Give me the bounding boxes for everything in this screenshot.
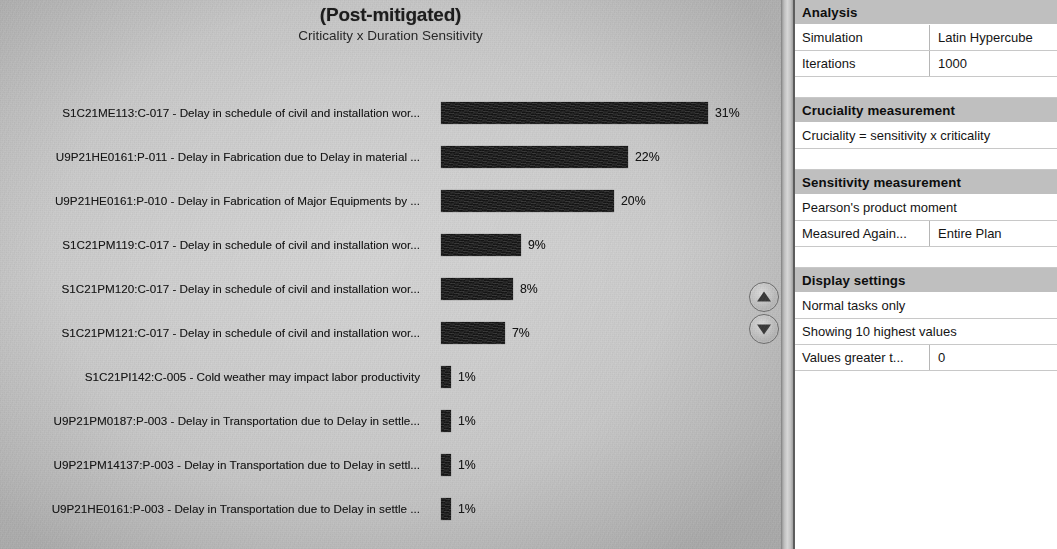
row-values-greater-than[interactable]: Values greater t... 0 (795, 345, 1057, 371)
triangle-up-icon (757, 292, 771, 302)
row-simulation-value: Latin Hypercube (930, 30, 1057, 45)
bar-track (441, 322, 505, 344)
bar-track (441, 498, 451, 520)
section-header-sensitivity: Sensitivity measurement (795, 170, 1057, 195)
row-sensitivity-method-text: Pearson's product moment (795, 200, 1057, 215)
bar-track (441, 146, 628, 168)
bar-row[interactable]: U9P21PM14137:P-003 - Delay in Transporta… (0, 452, 781, 478)
row-measured-against-value: Entire Plan (930, 226, 1057, 241)
bar-track (441, 454, 451, 476)
bar-value-label: 9% (528, 234, 546, 256)
bar-label: U9P21HE0161:P-011 - Delay in Fabrication… (0, 144, 420, 170)
scroll-up-button[interactable] (749, 282, 779, 312)
row-normal-tasks-only-text: Normal tasks only (795, 298, 1057, 313)
bar-label: U9P21HE0161:P-010 - Delay in Fabrication… (0, 188, 420, 214)
bar-track (441, 278, 513, 300)
bar-value-label: 1% (458, 498, 476, 520)
chart-title-block: (Post-mitigated) Criticality x Duration … (0, 4, 781, 45)
bar-row[interactable]: U9P21HE0161:P-010 - Delay in Fabrication… (0, 188, 781, 214)
bar-row[interactable]: S1C21ME113:C-017 - Delay in schedule of … (0, 100, 781, 126)
row-measured-against[interactable]: Measured Again... Entire Plan (795, 221, 1057, 247)
analysis-side-panel: Analysis Simulation Latin Hypercube Iter… (793, 0, 1057, 549)
row-showing-highest-values[interactable]: Showing 10 highest values (795, 319, 1057, 345)
section-header-cruciality: Cruciality measurement (795, 98, 1057, 123)
chart-subtitle: Criticality x Duration Sensitivity (0, 27, 781, 45)
bar-fill[interactable] (441, 410, 451, 432)
bar-value-label: 1% (458, 366, 476, 388)
bar-label: S1C21PM121:C-017 - Delay in schedule of … (0, 320, 420, 346)
row-showing-highest-values-text: Showing 10 highest values (795, 324, 1057, 339)
section-spacer (795, 149, 1057, 170)
row-simulation[interactable]: Simulation Latin Hypercube (795, 25, 1057, 51)
bar-row[interactable]: U9P21HE0161:P-011 - Delay in Fabrication… (0, 144, 781, 170)
row-iterations-key: Iterations (795, 56, 929, 71)
bar-label: U9P21HE0161:P-003 - Delay in Transportat… (0, 496, 420, 522)
bar-fill[interactable] (441, 454, 451, 476)
section-header-display-settings: Display settings (795, 268, 1057, 293)
bar-label: S1C21ME113:C-017 - Delay in schedule of … (0, 100, 420, 126)
bar-value-label: 31% (715, 102, 740, 124)
row-sensitivity-method[interactable]: Pearson's product moment (795, 195, 1057, 221)
bar-row[interactable]: S1C21PI142:C-005 - Cold weather may impa… (0, 364, 781, 390)
bar-value-label: 1% (458, 454, 476, 476)
bar-value-label: 8% (520, 278, 538, 300)
row-values-greater-than-key: Values greater t... (795, 350, 929, 365)
section-spacer (795, 247, 1057, 268)
bar-fill[interactable] (441, 190, 614, 212)
analysis-screen: (Post-mitigated) Criticality x Duration … (0, 0, 1057, 549)
bar-fill[interactable] (441, 366, 451, 388)
bar-label: U9P21PM0187:P-003 - Delay in Transportat… (0, 408, 420, 434)
bar-row[interactable]: U9P21PM0187:P-003 - Delay in Transportat… (0, 408, 781, 434)
bar-label: S1C21PI142:C-005 - Cold weather may impa… (0, 364, 420, 390)
row-normal-tasks-only[interactable]: Normal tasks only (795, 293, 1057, 319)
row-iterations[interactable]: Iterations 1000 (795, 51, 1057, 77)
page-title: (Post-mitigated) (0, 4, 781, 26)
row-measured-against-key: Measured Again... (795, 226, 929, 241)
bar-label: S1C21PM120:C-017 - Delay in schedule of … (0, 276, 420, 302)
bar-value-label: 7% (512, 322, 530, 344)
scroll-down-button[interactable] (749, 314, 779, 344)
row-values-greater-than-value: 0 (930, 350, 1057, 365)
bar-track (441, 234, 521, 256)
chart-pane: (Post-mitigated) Criticality x Duration … (0, 0, 781, 549)
bar-fill[interactable] (441, 322, 505, 344)
bar-track (441, 102, 708, 124)
bar-label: S1C21PM119:C-017 - Delay in schedule of … (0, 232, 420, 258)
bar-value-label: 20% (621, 190, 646, 212)
bar-row[interactable]: S1C21PM120:C-017 - Delay in schedule of … (0, 276, 781, 302)
triangle-down-icon (757, 325, 771, 335)
section-spacer (795, 77, 1057, 98)
bar-value-label: 22% (635, 146, 660, 168)
bar-fill[interactable] (441, 498, 451, 520)
section-header-analysis: Analysis (795, 0, 1057, 25)
row-cruciality-formula[interactable]: Cruciality = sensitivity x criticality (795, 123, 1057, 149)
row-cruciality-formula-text: Cruciality = sensitivity x criticality (795, 128, 1057, 143)
bar-track (441, 366, 451, 388)
scroll-buttons (749, 282, 781, 344)
bar-row[interactable]: S1C21PM121:C-017 - Delay in schedule of … (0, 320, 781, 346)
bar-track (441, 190, 614, 212)
bar-row[interactable]: U9P21HE0161:P-003 - Delay in Transportat… (0, 496, 781, 522)
bar-track (441, 410, 451, 432)
bar-fill[interactable] (441, 146, 628, 168)
bar-fill[interactable] (441, 102, 708, 124)
bar-label: U9P21PM14137:P-003 - Delay in Transporta… (0, 452, 420, 478)
bar-fill[interactable] (441, 234, 521, 256)
bar-fill[interactable] (441, 278, 513, 300)
bar-value-label: 1% (458, 410, 476, 432)
bar-row[interactable]: S1C21PM119:C-017 - Delay in schedule of … (0, 232, 781, 258)
row-simulation-key: Simulation (795, 30, 929, 45)
row-iterations-value: 1000 (930, 56, 1057, 71)
